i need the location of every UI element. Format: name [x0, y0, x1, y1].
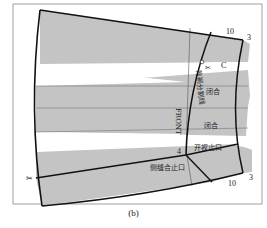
num-top-10: 10 — [226, 27, 234, 36]
panel-bottom — [36, 144, 252, 206]
num-bottom-3: 3 — [249, 173, 253, 182]
label-closed-1: 闭合 — [206, 87, 220, 96]
pattern-diagram: ✂ C ✂ 背裥分割线 FRONT 闭合 闭合 开衩止口 侧缝合止口 10 3 … — [0, 0, 267, 228]
num-top-3: 3 — [247, 33, 251, 42]
label-closed-2: 闭合 — [204, 121, 218, 130]
scissors-left-icon: ✂ — [26, 174, 33, 183]
notch-c-icon: C — [221, 61, 226, 70]
scissors-icon: ✂ — [205, 64, 211, 72]
num-point-4: 4 — [177, 147, 181, 156]
figure-caption: (b) — [0, 208, 267, 218]
num-bottom-10: 10 — [228, 179, 236, 188]
point-marker-icon — [200, 60, 204, 64]
label-slit-stop: 开衩止口 — [194, 143, 222, 152]
label-side-seam-stop: 侧缝合止口 — [150, 163, 185, 172]
label-front: FRONT — [174, 108, 182, 135]
pattern-drawing: ✂ C ✂ 背裥分割线 FRONT 闭合 闭合 开衩止口 侧缝合止口 10 3 … — [0, 0, 267, 228]
